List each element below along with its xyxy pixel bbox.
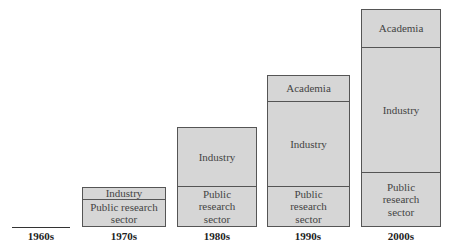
segment-academia: Academia — [267, 75, 350, 102]
segment-industry: Industry — [82, 187, 166, 200]
bar-2000s: Academia Industry Public research sector — [361, 9, 441, 227]
bar-1990s: Academia Industry Public research sector — [267, 75, 350, 227]
baseline-1960s — [12, 227, 70, 228]
decade-label-1970s: 1970s — [82, 230, 166, 242]
segment-public-research-sector: Public research sector — [361, 173, 441, 227]
decade-label-1960s: 1960s — [0, 230, 83, 242]
segment-public-research-sector: Public research sector — [267, 187, 350, 227]
segment-academia: Academia — [361, 9, 441, 48]
bar-1980s: Industry Public research sector — [177, 127, 257, 227]
segment-industry: Industry — [361, 48, 441, 173]
segment-public-research-sector: Public research sector — [177, 187, 257, 227]
decade-label-1980s: 1980s — [175, 230, 259, 242]
bar-1970s: Industry Public research sector — [82, 187, 166, 227]
decade-label-1990s: 1990s — [266, 230, 350, 242]
segment-industry: Industry — [267, 102, 350, 187]
segment-public-research-sector: Public research sector — [82, 200, 166, 227]
segment-industry: Industry — [177, 127, 257, 187]
decade-label-2000s: 2000s — [359, 230, 443, 242]
